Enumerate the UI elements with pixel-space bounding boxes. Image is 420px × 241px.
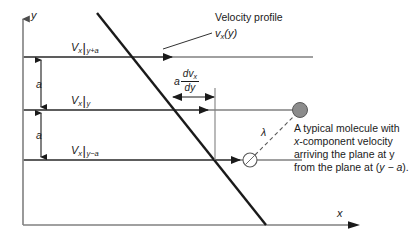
- profile-label-leader: [163, 33, 212, 49]
- molecule-note-line-2-rest: -component velocity: [299, 135, 392, 147]
- gradient-dimension: [173, 88, 215, 160]
- gradient-coefficient: a: [174, 75, 181, 87]
- gradient-numerator: dvx: [181, 68, 199, 82]
- plane-label-y-plus-a-level: y+a: [86, 46, 98, 55]
- molecule-note-line-4-italic: y − a: [379, 161, 402, 173]
- plane-label-y-minus-a-level: y−a: [86, 149, 98, 158]
- gap-label-upper: a: [36, 78, 42, 90]
- x-axis: [23, 221, 360, 229]
- gradient-numerator-text: dv: [183, 68, 194, 79]
- plane-label-y: Vx|y: [71, 93, 90, 109]
- gradient-denominator: dy: [181, 82, 199, 94]
- velocity-profile-diagram: y x Velocity profile vx(y) a a Vx|y+a Vx…: [0, 0, 420, 241]
- x-axis-label: x: [337, 207, 343, 220]
- gradient-annotation: a dvx dy: [174, 68, 199, 94]
- mean-free-path-label: λ: [261, 126, 266, 138]
- molecule-note-line-4-post: ).: [402, 161, 408, 173]
- plane-lines: [23, 57, 313, 160]
- velocity-profile-caption: Velocity profile: [215, 11, 283, 23]
- plane-label-y-minus-a: Vx|y−a: [71, 143, 99, 159]
- molecule-note: A typical molecule with x-component velo…: [294, 122, 416, 174]
- velocity-profile-line: [97, 13, 266, 225]
- molecule-note-line-1: A typical molecule with: [294, 122, 400, 134]
- x-axis-arrowhead: [348, 221, 360, 229]
- plane-label-y-level: y: [86, 99, 90, 108]
- diagram-canvas: [0, 0, 420, 241]
- velocity-profile-symbol: vx(y): [215, 27, 237, 42]
- plane-label-y-plus-a: Vx|y+a: [71, 40, 99, 56]
- molecule-note-line-3: arriving the plane at y: [294, 148, 394, 160]
- molecule-note-line-4-pre: from the plane at (: [294, 161, 379, 173]
- y-axis-label: y: [31, 9, 37, 22]
- gradient-fraction: dvx dy: [181, 68, 199, 94]
- gradient-numerator-subscript: x: [193, 73, 197, 80]
- gap-label-lower: a: [36, 129, 42, 141]
- velocity-vectors: [24, 57, 240, 160]
- profile-symbol-argument: (y): [224, 27, 237, 39]
